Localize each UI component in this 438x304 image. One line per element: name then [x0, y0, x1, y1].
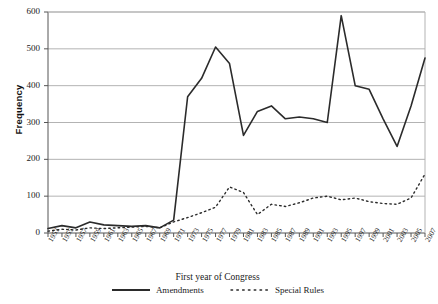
legend-label-amendments: Amendments: [156, 285, 204, 295]
legend-dotted-line-icon: [230, 286, 270, 294]
legend-solid-line-icon: [111, 286, 151, 294]
legend-item-special-rules: Special Rules: [230, 285, 324, 295]
legend-label-special-rules: Special Rules: [275, 285, 324, 295]
x-axis-title: First year of Congress: [0, 272, 435, 282]
legend-item-amendments: Amendments: [111, 285, 204, 295]
cut-off-caption: [30, 297, 410, 304]
chart-legend: Amendments Special Rules: [0, 285, 435, 295]
series-line-special-rules: [48, 174, 425, 231]
